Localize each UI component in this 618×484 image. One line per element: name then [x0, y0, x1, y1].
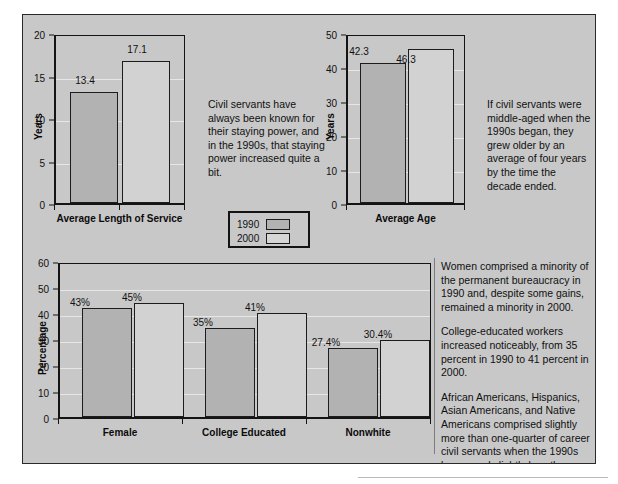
legend-swatch-1990-icon	[266, 219, 290, 230]
note-divider	[434, 258, 435, 454]
bar-value-label-1990-college-educated: 35%	[178, 317, 228, 328]
y-axis-title-percentage: Percentage	[37, 321, 48, 375]
y-tick-label: 0	[27, 414, 49, 425]
figure-panel: 20 15 10 5 0 Years 13.4 17.1 Average Len…	[22, 14, 596, 464]
x-tick-mark	[119, 205, 120, 210]
y-axis-title-years: Years	[33, 113, 44, 140]
note-demographics-paragraph-2: College-educated workers increased notic…	[441, 325, 591, 379]
y-tick-label: 0	[23, 200, 45, 211]
gridline	[60, 290, 430, 291]
bar-value-label-2000: 17.1	[97, 44, 177, 55]
bar-value-label-2000-college-educated: 41%	[230, 302, 280, 313]
y-tick-label: 20	[23, 30, 45, 41]
x-tick-mark	[58, 419, 59, 424]
y-tick-label: 15	[23, 72, 45, 83]
legend-entry-1990: 1990	[237, 217, 290, 231]
x-tick-mark	[346, 205, 347, 210]
bar-1990-average-length-of-service	[70, 92, 118, 203]
legend-entry-2000: 2000	[237, 231, 290, 245]
y-tick-label: 40	[315, 64, 337, 75]
plot-area-average-length-of-service	[54, 35, 185, 205]
note-demographics-paragraph-1: Women comprised a minority of the perman…	[441, 260, 591, 314]
note-service-paragraph: Civil servants have always been known fo…	[208, 98, 326, 180]
chart-legend: 1990 2000	[228, 211, 310, 248]
bar-value-label-1990-nonwhite: 27.4%	[296, 337, 356, 348]
note-service: Civil servants have always been known fo…	[208, 98, 326, 180]
x-tick-mark	[54, 205, 55, 210]
note-demographics-paragraph-3: African Americans, Hispanics, Asian Amer…	[441, 391, 591, 464]
x-axis-label-average-age: Average Age	[346, 213, 465, 225]
y-tick-label: 5	[23, 157, 45, 168]
note-age-paragraph: If civil servants were middle-aged when …	[487, 98, 591, 193]
bar-value-label-1990-female: 43%	[55, 297, 105, 308]
x-tick-mark	[306, 419, 307, 424]
bar-value-label-2000-age: 46.3	[366, 54, 446, 65]
x-axis-label-college-educated: College Educated	[182, 427, 306, 439]
y-tick-label: 60	[27, 258, 49, 269]
y-tick-label: 50	[27, 284, 49, 295]
x-tick-mark	[184, 205, 185, 210]
bar-2000-nonwhite	[380, 340, 430, 417]
bar-2000-average-age	[408, 49, 454, 203]
bar-2000-average-length-of-service	[122, 61, 170, 203]
x-axis-label-female: Female	[58, 427, 182, 439]
y-tick-label: 30	[315, 98, 337, 109]
bar-2000-college-educated	[257, 313, 307, 417]
y-tick-label: 0	[315, 200, 337, 211]
y-tick-label: 50	[315, 30, 337, 41]
legend-label-1990: 1990	[237, 219, 259, 230]
legend-label-2000: 2000	[237, 233, 259, 244]
bar-value-label-2000-female: 45%	[107, 292, 157, 303]
y-axis-title-years-age: Years	[325, 113, 336, 140]
bar-2000-female	[134, 303, 184, 417]
bar-1990-female	[82, 308, 132, 417]
note-demographics: Women comprised a minority of the perman…	[441, 260, 591, 464]
x-tick-mark	[182, 419, 183, 424]
y-tick-label: 40	[27, 310, 49, 321]
plot-area-workforce-composition	[58, 263, 431, 419]
legend-swatch-2000-icon	[266, 233, 290, 244]
bar-1990-college-educated	[205, 328, 255, 417]
bar-value-label-1990: 13.4	[45, 75, 125, 86]
bar-value-label-2000-nonwhite: 30.4%	[348, 329, 408, 340]
x-tick-mark	[430, 419, 431, 424]
bar-1990-nonwhite	[328, 348, 378, 417]
x-axis-label-average-length-of-service: Average Length of Service	[54, 213, 185, 225]
x-tick-mark	[464, 205, 465, 210]
y-tick-label: 10	[27, 388, 49, 399]
y-tick-label: 10	[315, 166, 337, 177]
note-age: If civil servants were middle-aged when …	[487, 98, 591, 193]
x-axis-label-nonwhite: Nonwhite	[306, 427, 430, 439]
page-rule	[358, 477, 608, 478]
bar-1990-average-age	[360, 63, 406, 203]
